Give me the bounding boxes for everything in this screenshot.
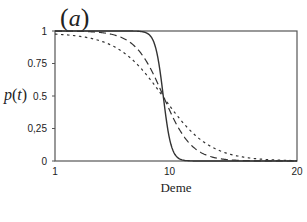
y-axis-label: p(t) xyxy=(3,86,27,104)
svg-text:0: 0 xyxy=(41,156,47,167)
svg-text:0.5: 0.5 xyxy=(33,91,47,102)
svg-text:0.75: 0.75 xyxy=(28,58,48,69)
plot-frame xyxy=(55,31,297,161)
svg-text:0,25: 0,25 xyxy=(28,123,48,134)
svg-text:1: 1 xyxy=(41,26,47,37)
svg-text:20: 20 xyxy=(291,166,303,177)
y-tick-labels: 00,250.50.751 xyxy=(28,26,48,167)
series-line-solid xyxy=(55,31,297,161)
x-tick-labels: 11020 xyxy=(52,166,303,177)
chart: (a) 00,250.50.751 11020 p(t) Deme xyxy=(0,0,307,222)
chart-title: (a) xyxy=(60,3,89,32)
series-line-dashed xyxy=(55,31,297,161)
series-line-dash-dot xyxy=(55,34,297,160)
svg-text:10: 10 xyxy=(164,166,176,177)
x-axis-label: Deme xyxy=(160,180,191,195)
series-lines xyxy=(55,31,297,161)
svg-text:1: 1 xyxy=(52,166,58,177)
